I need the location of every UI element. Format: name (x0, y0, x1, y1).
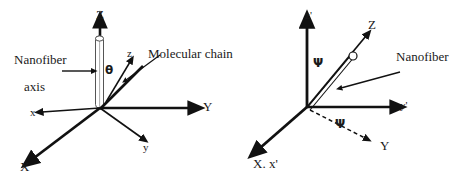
figure-canvas: Z Y X z y x θ Nanofiber axis Molecular c… (0, 0, 459, 181)
psi-symbol-upper: Ψ (313, 57, 323, 69)
psi-symbol-lower: Ψ (335, 118, 345, 130)
right-nanofiber-leader (341, 72, 400, 88)
right-label-z-prime: z' (305, 10, 312, 21)
right-label-Y: Y (380, 139, 389, 152)
right-axis-Z (307, 36, 366, 107)
right-label-X-x-prime: X. x' (253, 157, 278, 170)
right-axis-X-x-prime (260, 107, 307, 148)
right-nanofiber-label: Nanofiber (396, 50, 449, 63)
right-diagram-vectors (0, 0, 459, 181)
right-label-Z: Z (368, 18, 376, 31)
right-label-y-prime: y' (400, 100, 407, 111)
